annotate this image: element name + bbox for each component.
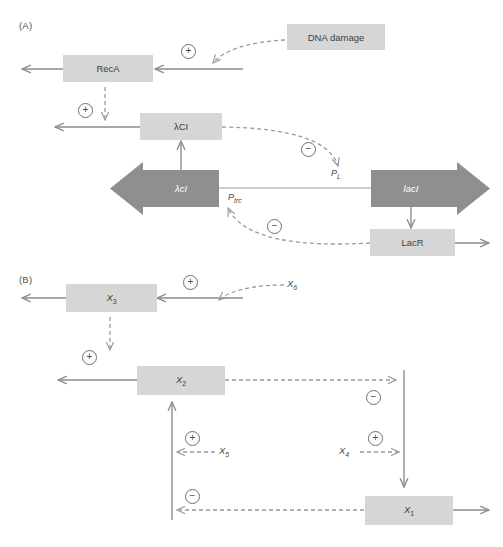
sign-minus-x2-x1branch: − bbox=[366, 390, 381, 405]
sign-plus-dna-damage-reca: + bbox=[181, 44, 196, 59]
sign-minus-lambdaci-pl: − bbox=[301, 142, 316, 157]
label-x6-sub: 6 bbox=[293, 284, 297, 291]
node-x3-label: X3 bbox=[106, 292, 116, 305]
sign-minus-x1-x2branch: − bbox=[185, 489, 200, 504]
sign-minus-lacr-ptrc: − bbox=[267, 219, 282, 234]
gene-label-lambda-cI[interactable]: λcI bbox=[143, 178, 219, 199]
promoter-ptrc-sub: trc bbox=[234, 197, 242, 204]
label-x4-sub: 4 bbox=[345, 451, 349, 458]
arrow-lacr-represses-ptrc bbox=[228, 208, 370, 244]
node-lambda-ci-protein[interactable]: λCI bbox=[140, 113, 222, 140]
node-reca-label: RecA bbox=[96, 63, 119, 74]
sign-plus-x4: + bbox=[368, 431, 383, 446]
node-x3-sub: 3 bbox=[113, 297, 117, 304]
sign-plus-reca-lambdaci: + bbox=[78, 103, 93, 118]
gene-label-lambda-cI-text: λcI bbox=[175, 183, 187, 194]
node-lacr[interactable]: LacR bbox=[370, 229, 455, 256]
node-x2[interactable]: X2 bbox=[137, 366, 225, 395]
promoter-pl: PL bbox=[331, 168, 341, 180]
label-x4: X4 bbox=[339, 445, 349, 458]
node-x2-sub: 2 bbox=[182, 380, 186, 387]
node-reca[interactable]: RecA bbox=[63, 55, 153, 82]
node-x1[interactable]: X1 bbox=[365, 496, 453, 525]
sign-plus-x5: + bbox=[185, 431, 200, 446]
gene-label-lacI[interactable]: lacI bbox=[375, 178, 447, 199]
node-dna-damage[interactable]: DNA damage bbox=[287, 24, 385, 50]
sign-plus-x3-x2: + bbox=[82, 350, 97, 365]
node-lambda-ci-protein-label: λCI bbox=[174, 121, 188, 132]
arrow-dna-damage-to-reca bbox=[213, 40, 285, 63]
sign-plus-x6-x3: + bbox=[183, 275, 198, 290]
figure-canvas: (A) DNA damage RecA λCI λcI lacI LacR PL… bbox=[0, 0, 503, 547]
node-x3[interactable]: X3 bbox=[66, 284, 157, 312]
node-lacr-label: LacR bbox=[401, 237, 423, 248]
node-dna-damage-label: DNA damage bbox=[308, 32, 365, 43]
diagram-vectors bbox=[0, 0, 503, 547]
panel-label-a: (A) bbox=[19, 20, 32, 31]
gene-label-lacI-text: lacI bbox=[404, 183, 419, 194]
label-x6: X6 bbox=[287, 278, 297, 291]
node-x1-sub: 1 bbox=[410, 510, 414, 517]
promoter-ptrc: Ptrc bbox=[228, 192, 242, 204]
node-x2-label: X2 bbox=[176, 374, 186, 387]
label-x5-sub: 5 bbox=[225, 451, 229, 458]
label-x5: X5 bbox=[219, 445, 229, 458]
arrow-lambdaci-represses-pl bbox=[222, 127, 338, 166]
panel-label-b: (B) bbox=[19, 274, 32, 285]
node-x1-label: X1 bbox=[404, 504, 414, 517]
promoter-pl-sub: L bbox=[337, 173, 341, 180]
